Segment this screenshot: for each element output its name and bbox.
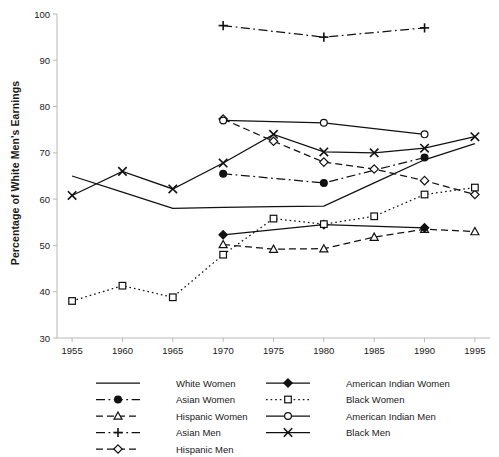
legend-item-black-men[interactable]: Black Men	[266, 427, 390, 438]
legend-item-black-women[interactable]: Black Women	[266, 394, 404, 405]
series-asian-men	[219, 21, 430, 42]
legend-item-white-women[interactable]: White Women	[96, 378, 235, 389]
legend-item-asian-women[interactable]: Asian Women	[96, 394, 235, 405]
y-axis-tick-label: 90	[39, 55, 50, 66]
x-axis-tick-label: 1985	[364, 345, 385, 356]
y-axis-tick-label: 100	[34, 9, 50, 20]
x-axis-tick-label: 1955	[62, 345, 83, 356]
legend-item-hispanic-men[interactable]: Hispanic Men	[96, 444, 234, 455]
legend-label: Asian Men	[176, 427, 221, 438]
x-axis-tick-label: 1965	[162, 345, 183, 356]
x-axis-tick-label: 1970	[213, 345, 234, 356]
legend-label: White Women	[176, 378, 235, 389]
legend-label: Black Women	[346, 394, 404, 405]
legend-label: American Indian Men	[346, 411, 436, 422]
legend-item-american-indian-women[interactable]: American Indian Women	[266, 378, 450, 389]
legend-item-asian-men[interactable]: Asian Men	[96, 427, 221, 438]
series-hispanic-men	[219, 115, 479, 199]
legend-item-american-indian-men[interactable]: American Indian Men	[266, 411, 436, 422]
x-axis-tick-label: 1960	[112, 345, 133, 356]
legend-item-hispanic-women[interactable]: Hispanic Women	[96, 411, 248, 422]
x-axis-tick-label: 1995	[464, 345, 485, 356]
legend-label: American Indian Women	[346, 378, 450, 389]
legend-label: Hispanic Men	[176, 444, 234, 455]
line-chart-plot: 3040506070809010019551960196519701975198…	[0, 0, 499, 457]
y-axis-tick-label: 40	[39, 286, 50, 297]
y-axis-tick-label: 50	[39, 240, 50, 251]
x-axis-tick-label: 1980	[313, 345, 334, 356]
series-hispanic-women	[219, 225, 479, 252]
x-axis-tick-label: 1990	[414, 345, 435, 356]
chart-figure: Percentage of White Men's Earnings 30405…	[0, 0, 499, 457]
legend-label: Asian Women	[176, 394, 235, 405]
x-axis-tick-label: 1975	[263, 345, 284, 356]
legend-label: Black Men	[346, 427, 390, 438]
series-american-indian-men	[220, 117, 428, 138]
y-axis-tick-label: 70	[39, 147, 50, 158]
y-axis-tick-label: 30	[39, 333, 50, 344]
legend-label: Hispanic Women	[176, 411, 248, 422]
y-axis-tick-label: 80	[39, 101, 50, 112]
y-axis-tick-label: 60	[39, 194, 50, 205]
